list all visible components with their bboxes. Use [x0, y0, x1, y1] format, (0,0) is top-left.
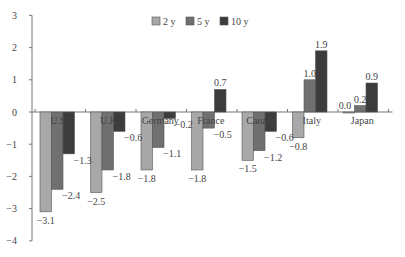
y-tick-label: 3: [12, 10, 17, 21]
y-tick-label: 0: [12, 107, 17, 118]
bars: [40, 51, 378, 212]
legend-label: 5 y: [197, 16, 210, 27]
bar-chart: 3210−1−2−3−4 −3.1−2.4−1.3−2.5−1.8−0.6−1.…: [0, 0, 405, 257]
data-label: 1.9: [315, 39, 328, 50]
data-label: 0.0: [339, 100, 352, 111]
category-label: Italy: [303, 115, 321, 126]
data-label: 0.9: [366, 71, 379, 82]
data-label: −1.8: [138, 173, 156, 184]
data-label: 0.2: [354, 94, 367, 105]
data-label: 1.0: [304, 68, 317, 79]
category-label: U.S.: [50, 115, 68, 126]
data-label: −1.3: [74, 155, 92, 166]
legend-swatch: [152, 17, 160, 25]
bar-italy-5y: [304, 80, 316, 112]
data-label: −0.6: [124, 132, 142, 143]
legend-swatch: [220, 17, 228, 25]
chart-canvas: 3210−1−2−3−4 −3.1−2.4−1.3−2.5−1.8−0.6−1.…: [0, 0, 405, 257]
data-label: −1.2: [264, 152, 282, 163]
y-tick-label: −2: [6, 171, 17, 182]
data-label: −1.8: [113, 171, 131, 182]
bar-japan-5y: [355, 106, 367, 112]
data-label: −0.5: [214, 129, 232, 140]
data-label: 0.7: [214, 77, 227, 88]
category-label: Japan: [351, 115, 374, 126]
data-label: −1.1: [163, 148, 181, 159]
y-tick-label: −3: [6, 203, 17, 214]
category-label: Canada: [246, 115, 277, 126]
bar-france-10y: [215, 89, 227, 112]
bar-japan-2y: [343, 112, 355, 113]
y-tick-label: −4: [6, 235, 17, 246]
bar-us-2y: [40, 112, 52, 212]
legend-label: 2 y: [163, 16, 176, 27]
data-label: −3.1: [37, 215, 55, 226]
data-label: −0.8: [289, 141, 307, 152]
bar-italy-10y: [316, 51, 328, 112]
legend: 2 y5 y10 y: [152, 16, 249, 27]
data-label: −2.4: [62, 190, 80, 201]
data-label: −1.5: [239, 163, 257, 174]
legend-swatch: [186, 17, 194, 25]
category-label: Germany: [142, 115, 179, 126]
category-label: France: [197, 115, 225, 126]
legend-label: 10 y: [231, 16, 249, 27]
y-tick-label: −1: [6, 139, 17, 150]
data-label: −2.5: [87, 196, 105, 207]
data-label: −1.8: [188, 173, 206, 184]
bar-japan-10y: [366, 83, 378, 112]
category-label: U.K.: [100, 115, 119, 126]
y-tick-label: 1: [12, 74, 17, 85]
y-tick-label: 2: [12, 42, 17, 53]
